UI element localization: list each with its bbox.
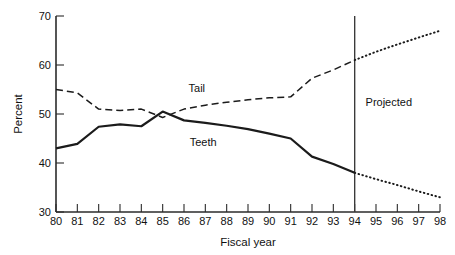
x-tick-label: 82 <box>93 215 105 227</box>
projected-region-label: Projected <box>366 96 412 108</box>
x-tick-label: 90 <box>263 215 275 227</box>
x-tick-label: 83 <box>114 215 126 227</box>
x-tick-label: 84 <box>135 215 147 227</box>
x-tick-label: 81 <box>71 215 83 227</box>
x-tick-label: 88 <box>221 215 233 227</box>
x-tick-label: 89 <box>242 215 254 227</box>
x-tick-label: 92 <box>306 215 318 227</box>
x-tick-label: 86 <box>178 215 190 227</box>
y-tick-label: 50 <box>39 108 51 120</box>
tail-series-actual-line <box>56 60 355 117</box>
y-tick-label: 40 <box>39 157 51 169</box>
x-tick-label: 98 <box>434 215 446 227</box>
x-tick-label: 94 <box>349 215 361 227</box>
y-tick-label: 60 <box>39 59 51 71</box>
x-tick-label: 96 <box>391 215 403 227</box>
x-tick-label: 85 <box>157 215 169 227</box>
y-axis-ticks <box>56 16 64 212</box>
teeth-series-label: Teeth <box>190 136 217 148</box>
y-axis-tick-labels: 70 60 50 40 30 <box>39 10 51 218</box>
line-chart-figure: 70 60 50 40 30 <box>0 0 455 255</box>
y-axis-title: Percent <box>12 93 24 133</box>
tail-series-projected-line <box>355 31 440 60</box>
x-axis-title: Fiscal year <box>220 236 276 248</box>
x-axis-ticks <box>56 204 440 212</box>
x-tick-label: 95 <box>370 215 382 227</box>
tail-series-label: Tail <box>189 82 206 94</box>
x-tick-label: 87 <box>199 215 211 227</box>
teeth-series-projected-line <box>355 173 440 198</box>
x-axis-tick-labels: 80 81 82 83 84 85 86 87 88 89 90 91 92 9… <box>50 215 446 227</box>
x-tick-label: 97 <box>413 215 425 227</box>
x-tick-label: 91 <box>285 215 297 227</box>
chart-container: 70 60 50 40 30 <box>0 0 455 255</box>
x-tick-label: 93 <box>327 215 339 227</box>
x-tick-label: 80 <box>50 215 62 227</box>
y-tick-label: 70 <box>39 10 51 22</box>
